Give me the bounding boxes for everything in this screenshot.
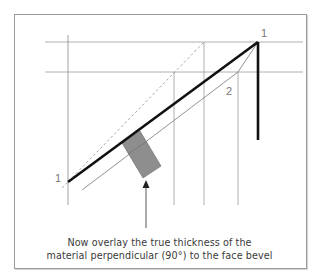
face-bevel-bold-line [68,42,258,182]
dashed-construction-line [62,42,204,188]
caption-line-1: Now overlay the true thickness of the [0,236,319,249]
label-point-1-bottom: 1 [55,172,61,184]
label-point-1-top: 1 [261,27,267,39]
label-point-2: 2 [226,85,232,97]
caption-line-2: material perpendicular (90°) to the face… [0,249,319,262]
arrow-head-icon [143,180,150,188]
inner-bevel-line [82,42,258,190]
